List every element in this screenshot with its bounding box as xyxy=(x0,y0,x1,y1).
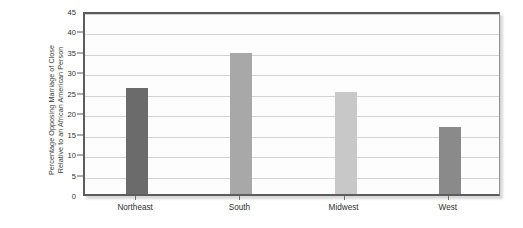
x-axis-tick-mark xyxy=(448,196,449,200)
x-axis-label-south: South xyxy=(229,203,250,212)
plot-inner xyxy=(85,14,499,194)
x-axis-tick-mark xyxy=(135,196,136,200)
y-axis-tick-labels: 051015202530354045 xyxy=(58,12,76,196)
y-axis-tick-label: 5 xyxy=(72,171,76,180)
y-axis-tick-label: 35 xyxy=(68,48,76,57)
x-axis-label-northeast: Northeast xyxy=(117,203,153,212)
y-axis-tick-label: 25 xyxy=(68,89,76,98)
bar-chart: Percentage Opposing Marriage of Close Re… xyxy=(0,0,523,228)
plot-area xyxy=(83,12,500,196)
bar-west xyxy=(439,127,461,194)
bar-northeast xyxy=(126,88,148,194)
x-axis-tick-mark xyxy=(344,196,345,200)
gridline xyxy=(85,55,499,56)
gridline xyxy=(85,34,499,35)
bar-midwest xyxy=(335,92,357,194)
y-axis-tick-label: 45 xyxy=(68,8,76,17)
y-axis-tick-label: 30 xyxy=(68,69,76,78)
y-axis-title-line-1: Percentage Opposing Marriage of Close xyxy=(47,45,56,175)
y-axis-tick-label: 0 xyxy=(72,192,76,201)
gridline xyxy=(85,14,499,15)
y-axis-tick-label: 15 xyxy=(68,130,76,139)
x-axis-category-labels: NortheastSouthMidwestWest xyxy=(83,203,500,219)
x-axis-tick-mark xyxy=(239,196,240,200)
y-axis-tick-label: 40 xyxy=(68,28,76,37)
x-axis-label-west: West xyxy=(439,203,458,212)
y-axis-tick-label: 10 xyxy=(68,151,76,160)
y-axis-tick-label: 20 xyxy=(68,110,76,119)
x-axis-tick-marks xyxy=(83,196,500,201)
x-axis-label-midwest: Midwest xyxy=(329,203,359,212)
gridline xyxy=(85,75,499,76)
bar-south xyxy=(230,53,252,194)
